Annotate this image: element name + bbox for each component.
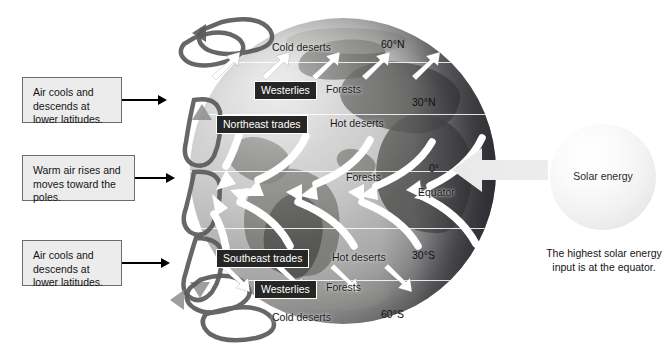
earth-globe-group: Westerlies Northeast trades Southeast tr… [168, 8, 436, 338]
wind-belt-label-northeast-trades: Northeast trades [216, 115, 308, 134]
callout-line: Warm air rises and [33, 164, 125, 178]
latitude-label-60s: 60°S [381, 308, 404, 320]
wind-arrow-polar-north [210, 48, 450, 82]
solar-energy-arrow [452, 146, 548, 194]
callout-line: moves toward the [33, 178, 125, 192]
callout-warm-air-rises: Warm air rises and moves toward the pole… [22, 155, 135, 201]
leader-arrowhead-top [158, 95, 167, 105]
wind-belt-label-westerlies-north: Westerlies [254, 81, 317, 100]
callout-line: lower latitudes. [33, 113, 112, 127]
callout-line: poles. [33, 191, 125, 205]
callout-air-cools-south: Air cools and descends at lower latitude… [22, 240, 122, 286]
callout-line: descends at [33, 263, 112, 277]
latitude-label-30n: 30°N [412, 96, 435, 108]
latitude-label-0: 0° [429, 162, 439, 174]
callout-air-cools-north: Air cools and descends at lower latitude… [22, 77, 122, 123]
latitude-label-30s: 30°S [412, 249, 435, 261]
sun-circle: Solar energy [550, 124, 656, 230]
wind-belt-label-westerlies-south: Westerlies [254, 280, 317, 299]
solar-caption-line: input is at the equator. [524, 260, 671, 274]
diagram-canvas: Air cools and descends at lower latitude… [0, 0, 671, 345]
solar-caption: The highest solar energy input is at the… [524, 246, 671, 274]
biome-label-forests-north: Forests [326, 83, 361, 95]
sun-label: Solar energy [550, 170, 656, 182]
latitude-label-60n: 60°N [381, 38, 404, 50]
leader-line-bottom [122, 262, 162, 264]
biome-label-cold-deserts-south: Cold deserts [272, 311, 331, 323]
biome-label-cold-deserts-north: Cold deserts [272, 41, 331, 53]
leader-line-middle [135, 177, 167, 179]
biome-label-forests-south: Forests [326, 281, 361, 293]
callout-line: descends at [33, 100, 112, 114]
leader-line-top [122, 99, 159, 101]
biome-label-hot-deserts-north: Hot deserts [330, 117, 384, 129]
biome-label-forests-equator: Forests [346, 171, 381, 183]
biome-label-hot-deserts-south: Hot deserts [332, 251, 386, 263]
equator-label: Equator [418, 186, 455, 198]
callout-line: Air cools and [33, 86, 112, 100]
callout-line: lower latitudes. [33, 276, 112, 290]
wind-belt-label-southeast-trades: Southeast trades [216, 249, 309, 268]
solar-caption-line: The highest solar energy [524, 246, 671, 260]
callout-line: Air cools and [33, 249, 112, 263]
